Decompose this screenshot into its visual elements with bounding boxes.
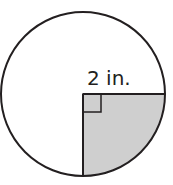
shaded-quarter-sector — [83, 94, 165, 176]
circle-diagram: 2 in. — [0, 0, 173, 185]
radius-label: 2 in. — [87, 66, 131, 90]
